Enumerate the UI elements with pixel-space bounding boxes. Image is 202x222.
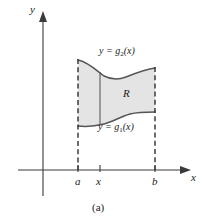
upper-curve-label: y = g2(x) [99,46,135,58]
y-axis-arrowhead [39,11,47,22]
figure-container: y x a x b y = g2(x) y = g1(x) R (a) [0,0,202,222]
lower-curve-label: y = g1(x) [98,122,134,134]
lower-curve-label-suffix: (x) [123,121,134,132]
figure-graphic [0,0,202,222]
x-axis-label: x [191,172,196,183]
lower-curve-label-prefix: y = g [98,121,119,132]
upper-curve-label-prefix: y = g [99,45,120,56]
upper-curve-label-suffix: (x) [124,45,135,56]
y-axis-label: y [30,4,35,15]
tick-label-a: a [75,176,81,187]
x-axis-arrowhead [180,166,191,174]
figure-caption: (a) [92,202,104,213]
tick-label-x: x [96,176,101,187]
tick-label-b: b [152,176,158,187]
region-label-R: R [123,88,130,99]
